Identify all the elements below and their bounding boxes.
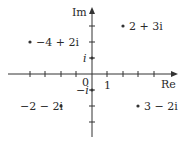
svg-text:−4 + 2i: −4 + 2i [36,36,79,49]
svg-text:−2 − 2i: −2 − 2i [20,100,63,113]
svg-text:3 − 2i: 3 − 2i [144,100,178,113]
real-axis [8,71,178,77]
y-axis-label: Im [72,6,87,19]
y-neg-unit-label: −i [76,84,89,97]
svg-text:2 + 3i: 2 + 3i [129,20,163,33]
point-3-minus-2i: 3 − 2i [136,100,178,113]
imaginary-axis-arrow-icon [89,7,95,14]
y-unit-label: i [83,52,87,65]
real-axis-arrow-icon [171,71,178,77]
point-neg2-minus-2i: −2 − 2i [20,100,63,113]
complex-plane-diagram: Im Re 0 1 i −i 2 + 3i −4 + 2i −2 − 2i 3 … [0,0,186,142]
point-2-plus-3i: 2 + 3i [121,20,163,33]
x-unit-label: 1 [104,79,111,92]
x-axis-label: Re [161,78,176,91]
point-neg4-plus-2i: −4 + 2i [28,36,79,49]
